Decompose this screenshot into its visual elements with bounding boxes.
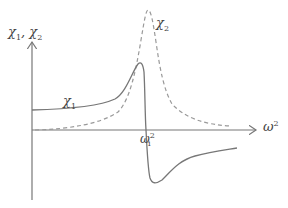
- resonance-frequency-label: ω2i: [140, 132, 150, 148]
- chart-canvas: [0, 0, 288, 208]
- chi2-label: χ2: [156, 16, 169, 33]
- x-axis-label: ω2: [263, 120, 279, 133]
- chi2-curve: [35, 10, 232, 130]
- susceptibility-figure: χ1, χ2 χ1 χ2 ω2 ω2i: [0, 0, 288, 208]
- chi1-label: χ1: [63, 94, 76, 111]
- y-axis-label: χ1, χ2: [8, 25, 42, 42]
